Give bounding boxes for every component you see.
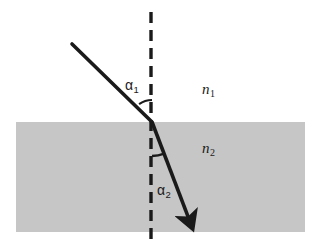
alpha1-label: α1	[125, 78, 139, 94]
refractive-index-n1-label: n1	[202, 82, 215, 99]
n2-symbol: n	[202, 140, 210, 156]
refractive-index-n2-label: n2	[202, 141, 215, 158]
alpha2-symbol: α	[157, 182, 165, 198]
alpha2-label: α2	[157, 183, 171, 199]
n2-subscript: 2	[210, 147, 216, 158]
n1-subscript: 1	[210, 88, 216, 99]
alpha2-subscript: 2	[165, 189, 171, 200]
n1-symbol: n	[202, 81, 210, 97]
incident-ray	[72, 44, 152, 122]
alpha1-subscript: 1	[133, 84, 139, 95]
refraction-diagram: α1 α2 n1 n2	[0, 0, 321, 243]
alpha1-symbol: α	[125, 77, 133, 93]
medium-n2-region	[16, 122, 305, 232]
refraction-figure-canvas	[0, 0, 321, 243]
